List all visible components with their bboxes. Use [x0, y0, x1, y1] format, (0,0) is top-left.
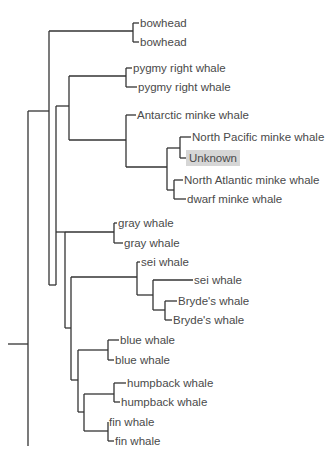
leaf-label: fin whale: [115, 435, 160, 447]
leaf-label: gray whale: [124, 237, 180, 249]
leaf-labels: bowheadbowheadpygmy right whalepygmy rig…: [109, 17, 324, 447]
leaf-label: bowhead: [140, 36, 187, 48]
leaf-label: North Pacific minke whale: [192, 131, 324, 143]
leaf-label: North Atlantic minke whale: [184, 174, 320, 186]
leaf-label: fin whale: [109, 416, 154, 428]
leaf-label: sei whale: [194, 274, 242, 286]
leaf-label: pygmy right whale: [133, 62, 226, 74]
leaf-label: pygmy right whale: [138, 81, 231, 93]
leaf-label: sei whale: [141, 256, 189, 268]
phylogenetic-tree: bowheadbowheadpygmy right whalepygmy rig…: [0, 0, 335, 463]
leaf-label: blue whale: [115, 354, 170, 366]
leaf-label: humpback whale: [121, 396, 207, 408]
leaf-label: humpback whale: [127, 377, 213, 389]
leaf-label: Bryde's whale: [178, 295, 249, 307]
leaf-label: gray whale: [118, 217, 174, 229]
leaf-label-unknown: Unknown: [189, 152, 237, 164]
leaf-label: dwarf minke whale: [187, 193, 282, 205]
leaf-label: bowhead: [140, 17, 187, 29]
leaf-label: Bryde's whale: [173, 314, 244, 326]
leaf-label: Antarctic minke whale: [137, 109, 249, 121]
leaf-label: blue whale: [120, 334, 175, 346]
